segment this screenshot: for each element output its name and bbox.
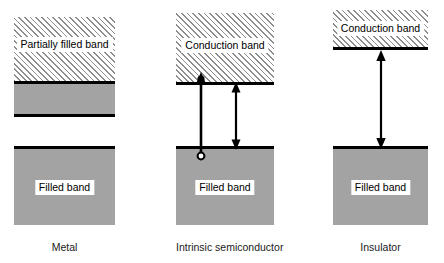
- caption-insulator: Insulator: [333, 241, 428, 253]
- semiconductor-conduction-band-label: Conduction band: [181, 38, 268, 53]
- metal-partially-filled-band: Partially filled band: [14, 17, 115, 84]
- metal-partial-gray-strip: [14, 84, 115, 117]
- metal-partially-filled-band-label: Partially filled band: [16, 37, 112, 52]
- arrowhead-down-icon: [232, 140, 241, 151]
- insulator-filled-band-label: Filled band: [351, 180, 410, 195]
- semiconductor-filled-band-label: Filled band: [195, 180, 254, 195]
- insulator-conduction-band: Conduction band: [333, 10, 428, 50]
- column-metal: Partially filled band Filled band Metal: [14, 0, 115, 263]
- caption-intrinsic-semiconductor: Intrinsic semiconductor: [176, 241, 274, 253]
- electron-dot-icon: [197, 75, 204, 82]
- arrowhead-down-icon: [376, 138, 385, 149]
- hole-circle-icon: [198, 153, 205, 160]
- band-structure-figure: Partially filled band Filled band Metal …: [0, 0, 444, 263]
- metal-filled-band: Filled band: [14, 146, 115, 225]
- electron-excitation-arrow: [186, 68, 216, 160]
- insulator-filled-band: Filled band: [333, 146, 428, 225]
- column-intrinsic-semiconductor: Conduction band Filled band Intrinsic se…: [176, 0, 274, 263]
- column-insulator: Conduction band Filled band Insulator: [333, 0, 428, 263]
- arrowhead-up-icon: [232, 82, 241, 93]
- semiconductor-band-gap-arrow: [223, 80, 249, 152]
- insulator-band-gap-arrow: [368, 48, 394, 151]
- caption-metal: Metal: [14, 241, 115, 253]
- insulator-conduction-band-label: Conduction band: [337, 21, 424, 36]
- arrowhead-up-icon: [376, 50, 385, 61]
- metal-filled-band-label: Filled band: [35, 180, 94, 195]
